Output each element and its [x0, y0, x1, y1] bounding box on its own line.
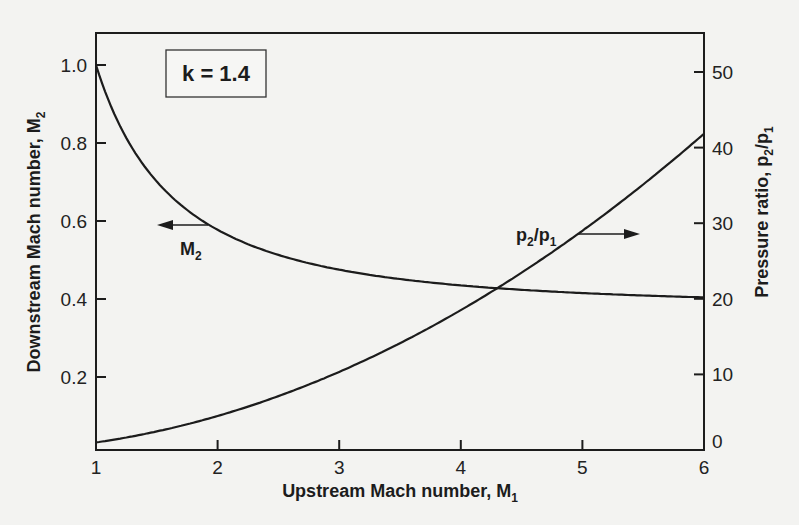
x-tick-label: 5	[577, 457, 588, 478]
m2-curve	[96, 65, 704, 297]
left-y-tick-label: 0.2	[61, 367, 87, 388]
k-value-text: k = 1.4	[182, 61, 251, 86]
x-tick-label: 4	[456, 457, 467, 478]
right-y-tick-label: 20	[712, 289, 733, 310]
right-y-tick-label: 30	[712, 213, 733, 234]
left-y-axis-ticks: 0.20.40.60.81.0	[61, 55, 106, 388]
left-y-tick-label: 0.6	[61, 211, 87, 232]
k-value-box: k = 1.4	[166, 50, 266, 97]
left-y-tick-label: 0.8	[61, 133, 87, 154]
right-y-axis-ticks: 01020304050	[694, 62, 733, 452]
left-y-tick-label: 1.0	[61, 55, 87, 76]
right-y-tick-label: 40	[712, 138, 733, 159]
left-y-axis-label: Downstream Mach number, M2	[24, 111, 48, 372]
pressure-ratio-curve	[96, 134, 704, 443]
x-tick-label: 2	[212, 457, 223, 478]
x-tick-label: 6	[699, 457, 710, 478]
right-y-axis-label: Pressure ratio, p2/p1	[752, 126, 776, 298]
shock-relations-chart: 123456 0.20.40.60.81.0 01020304050 k = 1…	[0, 0, 799, 525]
x-tick-label: 1	[91, 457, 102, 478]
pressure-ratio-arrow-annotation: p2/p1	[516, 225, 640, 249]
arrow-right-icon	[624, 229, 640, 239]
right-y-tick-label: 0	[712, 431, 723, 452]
m2-curve-label: M2	[180, 239, 202, 263]
left-y-tick-label: 0.4	[61, 289, 88, 310]
pressure-ratio-curve-label: p2/p1	[516, 225, 557, 249]
m2-arrow-annotation: M2	[157, 220, 208, 263]
arrow-left-icon	[157, 220, 173, 230]
right-y-tick-label: 10	[712, 364, 733, 385]
x-tick-label: 3	[334, 457, 345, 478]
right-y-tick-label: 50	[712, 62, 733, 83]
x-axis-ticks: 123456	[91, 440, 710, 478]
x-axis-label: Upstream Mach number, M1	[282, 481, 518, 505]
